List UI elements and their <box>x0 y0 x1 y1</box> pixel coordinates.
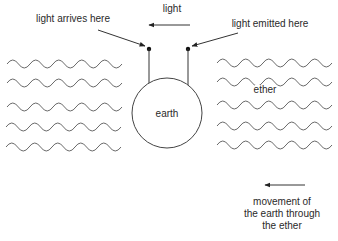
ether-label: ether <box>254 84 277 95</box>
ether-wave <box>217 59 332 67</box>
light-arrives-label: light arrives here <box>36 13 110 24</box>
earth-label: earth <box>156 108 179 119</box>
ether-wave <box>217 101 332 109</box>
movement-label-line-3: the ether <box>262 220 302 231</box>
movement-label-line-2: the earth through <box>244 208 320 219</box>
left-ether-waves <box>6 60 122 151</box>
ether-wave <box>7 79 122 87</box>
ether-wave <box>7 60 122 68</box>
light-emitted-pointer-arrow <box>192 33 238 46</box>
movement-label-line-1: movement of <box>253 196 311 207</box>
ether-wave <box>7 103 122 111</box>
ether-wave <box>217 141 332 149</box>
light-arrives-pointer-arrow <box>98 30 145 46</box>
ether-wave <box>6 143 121 151</box>
light-label: light <box>163 3 182 14</box>
ether-wave <box>217 122 332 130</box>
ether-diagram: light light arrives here light emitted h… <box>0 0 338 241</box>
light-emitted-label: light emitted here <box>232 18 309 29</box>
right-ether-waves <box>217 59 332 149</box>
ether-wave <box>6 123 121 131</box>
